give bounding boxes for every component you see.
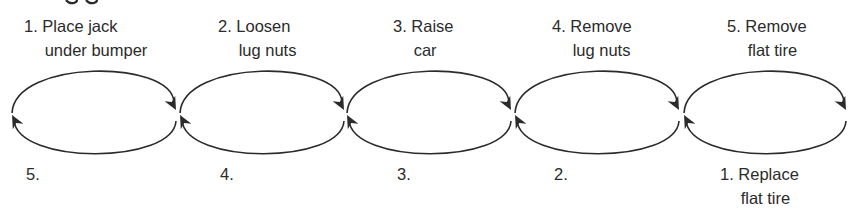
forward-step-label: 1. Place jackunder bumper	[24, 14, 147, 62]
reverse-step-label: 5.	[26, 162, 40, 186]
reverse-arrowhead-icon	[684, 115, 695, 129]
forward-step-label: 4. Removelug nuts	[552, 14, 632, 62]
step-label-line2: flat tire	[720, 186, 799, 210]
reverse-step-label: 2.	[554, 162, 568, 186]
step-label-line1: 2.	[554, 162, 568, 186]
reverse-arrowhead-icon	[180, 115, 191, 129]
step-label-line1: 5. Remove	[727, 14, 807, 38]
step-label-line2: flat tire	[727, 38, 807, 62]
reverse-arrowhead-icon	[347, 115, 358, 129]
forward-arrowhead-icon	[333, 96, 344, 110]
reverse-arc	[686, 120, 846, 154]
forward-step-label: 5. Removeflat tire	[727, 14, 807, 62]
step-label-line1: 3.	[397, 162, 411, 186]
reverse-step-label: 4.	[220, 162, 234, 186]
reverse-step-label: 1. Replaceflat tire	[720, 162, 799, 210]
reverse-arc	[517, 120, 679, 154]
forward-step-label: 3. Raisecar	[393, 14, 454, 62]
forward-step-label: 2. Loosenlug nuts	[218, 14, 296, 62]
forward-arc	[347, 71, 509, 113]
forward-arrowhead-icon	[500, 96, 511, 110]
step-label-line1: 2. Loosen	[218, 14, 296, 38]
step-label-line1: 3. Raise	[393, 14, 454, 38]
reverse-step-label: 3.	[397, 162, 411, 186]
cycle-ellipse	[684, 71, 846, 154]
step-label-line2: car	[393, 38, 454, 62]
forward-arrowhead-icon	[165, 96, 176, 110]
tire-change-cycle-diagram: 1. Place jackunder bumper2. Loosenlug nu…	[0, 0, 864, 210]
forward-arrowhead-icon	[835, 96, 846, 110]
forward-arc	[12, 71, 174, 113]
forward-arc	[684, 71, 844, 113]
step-label-line2: lug nuts	[218, 38, 296, 62]
step-label-line1: 1. Place jack	[24, 14, 147, 38]
forward-arc	[515, 71, 677, 113]
reverse-arrowhead-icon	[12, 115, 23, 129]
reverse-arc	[349, 120, 511, 154]
forward-arrowhead-icon	[668, 96, 679, 110]
step-label-line2: under bumper	[24, 38, 147, 62]
reverse-arc	[182, 120, 344, 154]
reverse-arc	[14, 120, 176, 154]
cycle-ellipse	[347, 71, 511, 154]
forward-arc	[180, 71, 342, 113]
step-label-line1: 4. Remove	[552, 14, 632, 38]
step-label-line1: 5.	[26, 162, 40, 186]
step-label-line1: 1. Replace	[720, 162, 799, 186]
step-label-line2: lug nuts	[552, 38, 632, 62]
cycle-ellipse	[515, 71, 679, 154]
step-label-line1: 4.	[220, 162, 234, 186]
reverse-arrowhead-icon	[515, 115, 526, 129]
cycle-ellipse	[180, 71, 344, 154]
cycle-ellipse	[12, 71, 176, 154]
